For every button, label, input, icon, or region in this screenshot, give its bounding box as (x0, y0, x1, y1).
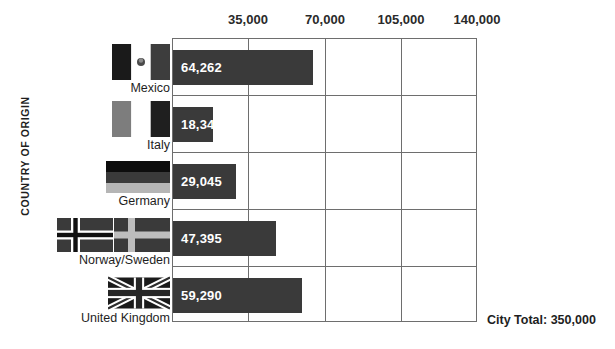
gridline-horizontal-1 (173, 95, 476, 96)
bar-italy[interactable]: 18,349 (173, 107, 213, 142)
x-tick-label-1: 70,000 (305, 12, 345, 27)
united-kingdom-flag-wrap (0, 276, 170, 310)
bar-chart: COUNTRY OF ORIGIN 35,000 70,000 105,000 … (0, 0, 615, 349)
category-label-norway-sweden: Norway/Sweden (0, 253, 170, 267)
category-mexico: Mexico (0, 44, 170, 95)
city-total-label: City Total: 350,000 (487, 313, 596, 327)
gridline-vertical-105000 (401, 39, 402, 321)
category-label-germany: Germany (0, 194, 170, 208)
norway-sweden-flag (57, 218, 170, 252)
italy-flag-wrap (0, 101, 170, 137)
category-italy: Italy (0, 101, 170, 152)
bar-value-mexico: 64,262 (173, 60, 222, 75)
bar-norway-sweden[interactable]: 47,395 (173, 221, 276, 256)
bar-value-germany: 29,045 (173, 174, 222, 189)
category-label-united-kingdom: United Kingdom (0, 311, 170, 325)
gridline-horizontal-4 (173, 266, 476, 267)
x-tick-label-2: 105,000 (378, 12, 425, 27)
x-tick-label-3: 140,000 (454, 12, 501, 27)
mexico-flag (112, 44, 170, 80)
bar-mexico[interactable]: 64,262 (173, 50, 313, 85)
bar-united-kingdom[interactable]: 59,290 (173, 278, 302, 313)
gridline-horizontal-3 (173, 209, 476, 210)
germany-flag (106, 161, 170, 193)
category-united-kingdom: United Kingdom (0, 276, 170, 325)
gridline-horizontal-2 (173, 152, 476, 153)
bar-value-norway-sweden: 47,395 (173, 231, 222, 246)
plot-area: 64,262 18,349 29,045 47,395 59,290 (172, 38, 477, 322)
norway-sweden-flag-wrap (0, 218, 170, 252)
bar-value-italy: 18,349 (173, 117, 222, 132)
gridline-vertical-70000 (325, 39, 326, 321)
bar-value-united-kingdom: 59,290 (173, 288, 222, 303)
category-label-italy: Italy (0, 138, 170, 152)
category-label-mexico: Mexico (0, 81, 170, 95)
category-germany: Germany (0, 161, 170, 208)
bar-germany[interactable]: 29,045 (173, 164, 236, 199)
x-tick-label-0: 35,000 (228, 12, 268, 27)
category-norway-sweden: Norway/Sweden (0, 218, 170, 267)
italy-flag (112, 101, 170, 137)
germany-flag-wrap (0, 161, 170, 193)
united-kingdom-flag (108, 276, 170, 310)
mexico-flag-wrap (0, 44, 170, 80)
